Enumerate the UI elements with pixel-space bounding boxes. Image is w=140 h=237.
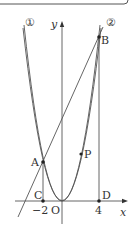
- curve-2-label: ②: [106, 16, 116, 29]
- tick-neg2-label: −2: [32, 204, 48, 217]
- y-axis-label: y: [50, 18, 58, 31]
- point-p-label: P: [84, 148, 92, 161]
- line-ab: [18, 27, 103, 217]
- point-d-label: D: [102, 189, 111, 202]
- x-axis-arrow-icon: [122, 199, 128, 203]
- origin-label: O: [51, 204, 60, 217]
- top-border: [0, 0, 128, 4]
- point-a: [41, 160, 45, 164]
- x-axis-label: x: [120, 206, 127, 219]
- point-b-label: B: [101, 34, 109, 47]
- point-p: [79, 152, 82, 155]
- point-a-label: A: [30, 156, 40, 169]
- point-d: [97, 199, 101, 203]
- tick-4-label: 4: [95, 204, 102, 217]
- point-c-label: C: [34, 189, 42, 202]
- curve-1-label: ①: [25, 16, 35, 29]
- coordinate-diagram: ① ② y x B A P C D O −2 4: [0, 0, 140, 237]
- y-axis-arrow-icon: [60, 21, 64, 27]
